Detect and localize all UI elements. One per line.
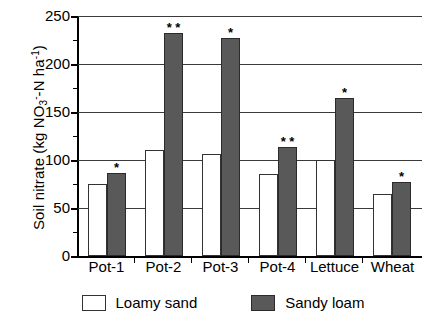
bar-group-pot-4: * * — [249, 16, 306, 256]
y-tick-major-0 — [71, 256, 78, 258]
bar-pot-1-loamy-sand[interactable] — [88, 184, 107, 256]
significance-stars-pot-3: * — [228, 27, 233, 38]
bar-group-pot-3: * — [192, 16, 249, 256]
significance-stars-wheat: * — [399, 171, 404, 182]
bar-pot-4-sandy-loam[interactable]: * * — [278, 147, 297, 257]
bar-wheat-sandy-loam[interactable]: * — [392, 182, 411, 256]
y-tick-label-100: 100 — [30, 152, 70, 167]
bar-pot-1-sandy-loam[interactable]: * — [107, 173, 126, 257]
x-tick-label-lettuce: Lettuce — [306, 258, 363, 275]
y-axis-tick-labels: 250 200 150 100 50 0 — [26, 16, 70, 256]
plot-area: * * * * * * * — [78, 16, 422, 256]
y-tick-major-150 — [71, 112, 78, 114]
bar-lettuce-sandy-loam[interactable]: * — [335, 98, 354, 257]
legend-label-loamy-sand: Loamy sand — [116, 294, 198, 311]
bar-pot-2-loamy-sand[interactable] — [145, 150, 164, 257]
bar-pot-2-sandy-loam[interactable]: * * — [164, 33, 183, 257]
y-tick-label-0: 0 — [30, 248, 70, 263]
bar-pot-3-sandy-loam[interactable]: * — [221, 38, 240, 256]
y-tick-label-150: 150 — [30, 104, 70, 119]
legend-item-sandy-loam[interactable]: Sandy loam — [251, 294, 364, 311]
legend-swatch-sandy-loam-icon — [251, 295, 275, 311]
y-tick-label-50: 50 — [30, 200, 70, 215]
x-tick-label-wheat: Wheat — [363, 258, 422, 275]
significance-stars-lettuce: * — [342, 87, 347, 98]
chart-legend: Loamy sand Sandy loam — [0, 294, 446, 311]
y-tick-major-250 — [71, 16, 78, 18]
bar-group-pot-1: * — [78, 16, 135, 256]
x-tick-label-pot-1: Pot-1 — [78, 258, 135, 275]
x-tick-label-pot-4: Pot-4 — [249, 258, 306, 275]
significance-stars-pot-2: * * — [167, 22, 181, 33]
bar-wheat-loamy-sand[interactable] — [373, 194, 392, 257]
bar-pot-4-loamy-sand[interactable] — [259, 174, 278, 257]
y-tick-major-200 — [71, 64, 78, 66]
y-tick-label-250: 250 — [30, 8, 70, 23]
x-tick-label-pot-3: Pot-3 — [192, 258, 249, 275]
significance-stars-pot-4: * * — [281, 136, 295, 147]
legend-label-sandy-loam: Sandy loam — [285, 294, 364, 311]
x-tick-label-pot-2: Pot-2 — [135, 258, 192, 275]
y-tick-major-100 — [71, 160, 78, 162]
significance-stars-pot-1: * — [114, 162, 119, 173]
legend-item-loamy-sand[interactable]: Loamy sand — [82, 294, 198, 311]
bar-group-lettuce: * — [306, 16, 363, 256]
y-tick-label-200: 200 — [30, 56, 70, 71]
x-axis-tick-labels: Pot-1 Pot-2 Pot-3 Pot-4 Lettuce Wheat — [78, 258, 422, 278]
chart-figure: Soil nitrate (kg NO3--N ha-1) 250 200 15… — [0, 0, 446, 327]
bar-group-pot-2: * * — [135, 16, 192, 256]
y-tick-major-50 — [71, 208, 78, 210]
bar-pot-3-loamy-sand[interactable] — [202, 154, 221, 257]
bar-lettuce-loamy-sand[interactable] — [316, 160, 335, 256]
legend-swatch-loamy-sand-icon — [82, 295, 106, 311]
bar-group-wheat: * — [363, 16, 422, 256]
